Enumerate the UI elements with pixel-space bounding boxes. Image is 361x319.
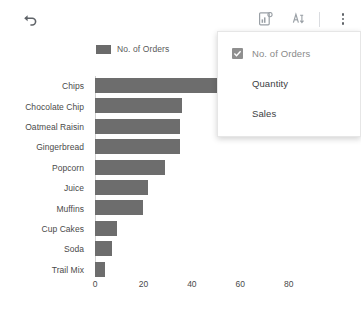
- bar[interactable]: [95, 180, 148, 195]
- x-axis-tick: 60: [236, 279, 245, 289]
- bar-row[interactable]: [95, 239, 313, 259]
- y-axis-label: Chocolate Chip: [0, 96, 91, 116]
- menu-item-label: No. of Orders: [252, 48, 310, 59]
- bar[interactable]: [95, 241, 112, 256]
- bar-row[interactable]: [95, 137, 313, 157]
- menu-item-label: Sales: [252, 108, 276, 119]
- series-dropdown-menu[interactable]: No. of OrdersQuantitySales: [217, 31, 361, 137]
- bar-row[interactable]: [95, 178, 313, 198]
- chart-panel: No. of Orders ChipsChocolate ChipOatmeal…: [0, 0, 361, 319]
- menu-item-label: Quantity: [252, 78, 288, 89]
- menu-item-quantity[interactable]: Quantity: [218, 68, 360, 98]
- bar[interactable]: [95, 221, 117, 236]
- y-axis-label: Cup Cakes: [0, 219, 91, 239]
- bar[interactable]: [95, 119, 180, 134]
- y-axis-label: Popcorn: [0, 158, 91, 178]
- y-axis-labels: ChipsChocolate ChipOatmeal RaisinGingerb…: [0, 76, 91, 275]
- y-axis-label: Muffins: [0, 198, 91, 218]
- x-axis-ticks: 020406080: [95, 275, 313, 295]
- x-axis-tick: 80: [284, 279, 293, 289]
- x-axis-tick: 20: [139, 279, 148, 289]
- menu-item-no-of-orders[interactable]: No. of Orders: [218, 38, 360, 68]
- y-axis-label: Juice: [0, 178, 91, 198]
- bar-row[interactable]: [95, 219, 313, 239]
- y-axis-label: Soda: [0, 239, 91, 259]
- bar-row[interactable]: [95, 158, 313, 178]
- bar[interactable]: [95, 98, 182, 113]
- x-axis-tick: 0: [93, 279, 98, 289]
- checkbox-checked-icon[interactable]: [232, 48, 243, 59]
- bar[interactable]: [95, 200, 143, 215]
- menu-item-sales[interactable]: Sales: [218, 98, 360, 128]
- y-axis-label: Gingerbread: [0, 137, 91, 157]
- x-axis-tick: 40: [187, 279, 196, 289]
- y-axis-label: Oatmeal Raisin: [0, 117, 91, 137]
- bar[interactable]: [95, 139, 180, 154]
- y-axis-label: Trail Mix: [0, 260, 91, 280]
- y-axis-label: Chips: [0, 76, 91, 96]
- bar-row[interactable]: [95, 198, 313, 218]
- bar[interactable]: [95, 160, 165, 175]
